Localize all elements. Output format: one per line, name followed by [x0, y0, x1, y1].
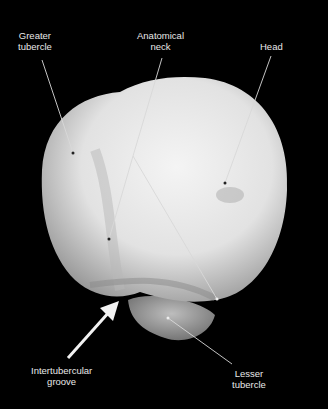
- arrow-icon: [68, 301, 119, 358]
- label-greater-tubercle: Greater tubercle: [18, 30, 52, 52]
- lesser-tubercle-shape: [128, 296, 215, 340]
- label-head: Head: [260, 41, 283, 52]
- label-intertubercular-groove: Intertubercular groove: [31, 365, 92, 387]
- bone-illustration: [0, 0, 328, 409]
- label-anatomical-neck: Anatomical neck: [137, 30, 184, 52]
- humeral-head-shape: [42, 77, 287, 302]
- label-lesser-tubercle: Lesser tubercle: [232, 368, 266, 390]
- anatomy-figure: Greater tubercle Anatomical neck Head In…: [0, 0, 328, 409]
